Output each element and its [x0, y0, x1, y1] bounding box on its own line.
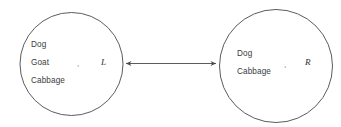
left-bank-item-2: Cabbage: [31, 77, 65, 85]
right-bank-separator: ,: [284, 61, 286, 69]
right-bank-item-1: Cabbage: [237, 68, 271, 76]
diagram-canvas: Dog Goat Cabbage , L Dog Cabbage , R: [0, 0, 341, 127]
left-bank-separator: ,: [77, 60, 79, 68]
right-bank-item-0: Dog: [237, 50, 252, 58]
left-bank-item-1: Goat: [31, 59, 49, 67]
left-bank-item-0: Dog: [31, 41, 46, 49]
set-circle-right-bank: [220, 10, 333, 123]
right-bank-set-label: R: [305, 58, 311, 67]
diagram-vector-layer: [0, 0, 341, 127]
left-bank-set-label: L: [101, 58, 106, 67]
